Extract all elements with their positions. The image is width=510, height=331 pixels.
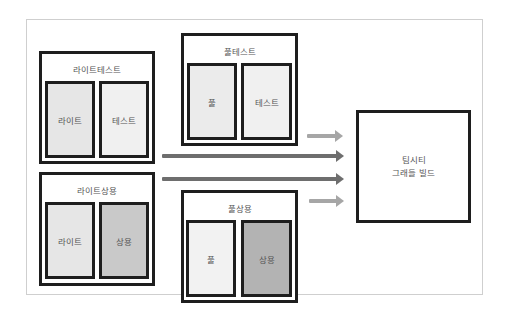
- target-line1: 팀시티: [402, 154, 426, 167]
- cell-lite: 라이트: [45, 81, 95, 158]
- group-title: 라이트상용: [42, 184, 152, 196]
- group-full-test: 풀테스트 풀 테스트: [181, 33, 298, 146]
- arrow-lite-test: [162, 154, 344, 158]
- target-line2: 그래들 빌드: [392, 167, 435, 180]
- teamcity-gradle-build-box: 팀시티 그래들 빌드: [356, 110, 471, 223]
- arrow-full-commercial: [309, 199, 344, 203]
- cell-full: 풀: [186, 220, 236, 297]
- cell-test: 테스트: [241, 63, 292, 140]
- cell-lite: 라이트: [45, 202, 95, 279]
- arrow-full-test: [307, 134, 343, 138]
- group-lite-commercial: 라이트상용 라이트 상용: [39, 172, 155, 286]
- arrow-lite-commercial: [162, 177, 344, 181]
- group-title: 풀테스트: [184, 45, 295, 57]
- group-title: 라이트테스트: [42, 63, 152, 75]
- cell-commercial: 상용: [241, 220, 292, 297]
- group-lite-test: 라이트테스트 라이트 테스트: [39, 51, 155, 164]
- cell-test: 테스트: [99, 81, 149, 158]
- cell-commercial: 상용: [99, 202, 149, 279]
- group-title: 풀상용: [184, 202, 295, 214]
- group-full-commercial: 풀상용 풀 상용: [181, 190, 298, 303]
- cell-full: 풀: [187, 63, 237, 140]
